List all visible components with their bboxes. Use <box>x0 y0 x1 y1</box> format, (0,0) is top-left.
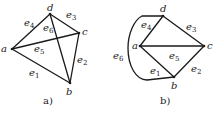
edge-label-e6: e6 <box>113 50 124 63</box>
vertex-label-b: b <box>171 80 177 91</box>
edge-label-e3: e3 <box>66 9 76 22</box>
vertex-label-a: a <box>132 40 138 51</box>
figure-b: a b c d e1 e2 e3 e4 e5 e6 b) <box>113 3 213 106</box>
vertex-label-c: c <box>82 26 88 37</box>
vertex-a <box>139 45 142 48</box>
edge-label-e1: e1 <box>29 67 39 80</box>
edge-label-e1: e1 <box>150 65 160 78</box>
graph-figure: a b c d e1 e2 e3 e4 e5 e6 a) a b c d e1 … <box>0 0 215 115</box>
vertex-label-b: b <box>66 86 72 97</box>
vertex-b <box>173 76 176 79</box>
edge-label-e5: e5 <box>34 43 44 56</box>
vertex-d <box>49 13 52 16</box>
edge-label-e2: e2 <box>191 63 201 76</box>
vertex-c <box>78 32 81 35</box>
vertex-label-c: c <box>207 40 213 51</box>
edge-label-e4: e4 <box>141 19 152 32</box>
edge-label-e4: e4 <box>24 17 35 30</box>
vertex-label-a: a <box>1 43 7 54</box>
vertex-d <box>162 15 165 18</box>
edge-e3 <box>163 16 204 46</box>
figure-a: a b c d e1 e2 e3 e4 e5 e6 a) <box>1 2 88 106</box>
vertex-b <box>69 82 72 85</box>
caption-a: a) <box>43 95 53 106</box>
vertex-label-d: d <box>160 3 166 14</box>
edge-label-e2: e2 <box>77 54 87 67</box>
edge-label-e5: e5 <box>169 50 179 63</box>
vertex-c <box>203 45 206 48</box>
vertex-label-d: d <box>47 2 53 13</box>
vertex-a <box>11 48 14 51</box>
edge-e5 <box>12 33 79 49</box>
caption-b: b) <box>160 95 170 106</box>
edge-label-e3: e3 <box>186 21 196 34</box>
